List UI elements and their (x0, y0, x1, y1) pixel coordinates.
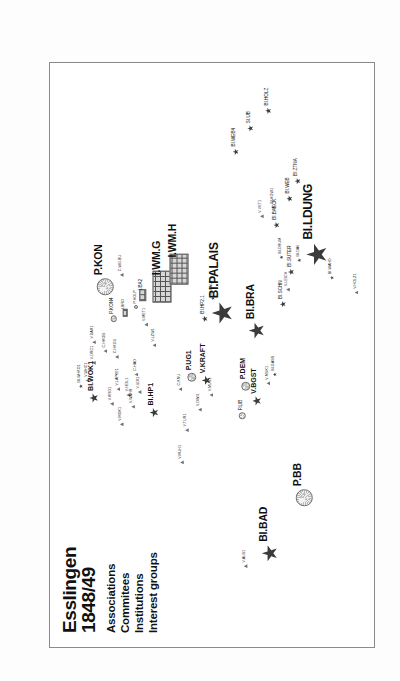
data-point-marker (296, 489, 313, 506)
data-point-marker (79, 384, 83, 388)
legend-item-interest_groups: Interest groups (146, 546, 160, 632)
data-point-marker (233, 148, 240, 155)
data-point-marker (131, 404, 135, 408)
data-point-marker (180, 460, 184, 464)
legend: AssociationsCommiteesInstitutionsInteres… (104, 546, 160, 632)
data-point-label: V.TUR1 (183, 413, 187, 426)
data-point-label: BI.WHKO1 (77, 364, 81, 382)
data-point-label: V.ALB1 (242, 549, 246, 561)
data-point-marker (273, 221, 280, 228)
data-point-label: C.HAD (133, 359, 137, 371)
data-point-label: BI.WAHD (328, 258, 332, 274)
data-point-marker (241, 381, 251, 391)
data-point-marker (89, 393, 99, 403)
data-point-label: BI.DAV (296, 244, 300, 256)
data-point-label: I.WM.G (150, 240, 162, 274)
data-point-label: BI.WOK1 (87, 360, 94, 390)
data-point-marker (260, 214, 264, 218)
data-point-label: BI.GASS (271, 355, 275, 370)
data-point-marker (103, 349, 107, 353)
legend-item-associations: Associations (104, 546, 118, 632)
data-point-label: C.KNU (177, 373, 181, 385)
data-point-marker (244, 564, 248, 568)
data-point-label: BI.BAU1 (209, 280, 213, 294)
data-point-label: P.HOLP (133, 290, 137, 303)
data-point-label: V.HOLZ1 (353, 273, 357, 288)
data-point-marker (306, 243, 328, 265)
data-point-label: P.KON (92, 244, 104, 275)
data-point-marker (115, 354, 119, 358)
data-point-label: BI.SCHN (278, 280, 283, 299)
data-point-label: P.LIB (237, 399, 242, 410)
data-point-marker (297, 258, 301, 262)
data-point-label: V.MGK1 (118, 406, 122, 420)
data-point-marker (138, 390, 142, 394)
data-point-marker (265, 107, 272, 114)
data-point-marker (198, 407, 202, 411)
data-point-marker (202, 315, 209, 322)
data-point-marker (185, 428, 189, 432)
data-point-label: V.BGST (250, 368, 257, 393)
data-point-label: V.VET1 (258, 199, 262, 212)
data-point-label: V.WAHR (129, 388, 133, 403)
title-block: Esslingen 1848/49 AssociationsCommiteesI… (60, 546, 160, 632)
data-point-label: BI.WEB (284, 177, 289, 193)
data-point-label: C.HKOB (102, 333, 106, 347)
legend-item-institutions: Institutions (132, 546, 146, 632)
data-point-marker (354, 290, 358, 294)
data-point-label: BI.LDUNG (301, 183, 315, 239)
data-point-marker (134, 305, 138, 309)
data-point-marker (252, 396, 262, 406)
data-point-label: V.DRC1 (90, 345, 94, 358)
data-point-marker (178, 387, 182, 391)
data-point-label: SI.HOW1 (270, 187, 274, 203)
data-point-marker (286, 195, 293, 202)
data-point-label: BI.BAD (257, 506, 269, 541)
data-point-label: V.MUH1 (178, 444, 182, 458)
data-point-marker (139, 289, 146, 301)
data-point-label: V.MET1 (142, 307, 146, 320)
data-point-marker (120, 272, 124, 276)
data-point-marker (92, 340, 96, 344)
data-point-label: BI.BRA (244, 284, 256, 319)
data-point-marker (144, 322, 148, 326)
data-point-marker (187, 372, 197, 382)
data-point-marker (286, 287, 290, 291)
data-point-label: V.LZW1 (151, 328, 155, 341)
data-point-marker (249, 322, 266, 339)
data-point-label: BI.HOLZ (263, 87, 268, 105)
data-point-label: V.KRO1 (108, 386, 112, 399)
data-point-marker (247, 125, 254, 132)
data-point-marker (209, 393, 213, 397)
legend-item-commitees: Commitees (118, 546, 132, 632)
data-point-marker (262, 545, 279, 562)
data-point-label: BI.SUTER (286, 245, 291, 266)
data-point-label: C.HKOU (113, 338, 117, 353)
data-point-label: V.HEIL1 (125, 377, 129, 391)
data-point-marker (152, 343, 156, 347)
figure-page: Esslingen 1848/49 AssociationsCommiteesI… (0, 0, 400, 681)
data-point-marker (123, 309, 128, 317)
data-point-label: V.DAR1 (90, 325, 94, 338)
data-point-label: V.MUK1 (265, 365, 269, 379)
data-point-label: I.BA2 (138, 278, 143, 289)
data-point-label: V.UDI1 (136, 376, 140, 388)
data-point-marker (116, 387, 120, 391)
data-point-marker (150, 407, 160, 417)
data-point-label: BI.ZTNA (293, 158, 298, 176)
rotated-figure: Esslingen 1848/49 AssociationsCommiteesI… (35, 46, 365, 636)
data-point-label: C.WG.BU (118, 254, 122, 270)
data-point-label: V.MUS1 (208, 377, 212, 391)
data-point-label: SI.UB (245, 111, 250, 123)
data-point-marker (280, 300, 287, 307)
data-point-marker (239, 412, 246, 419)
data-point-marker (279, 255, 283, 259)
data-point-marker (266, 381, 270, 385)
data-point-label: I.BRO (121, 299, 125, 309)
data-point-label: P.KON4 (108, 297, 113, 313)
data-point-label: V.LAPKE1 (115, 368, 119, 385)
data-point-marker (330, 275, 334, 279)
data-point-marker (97, 278, 114, 295)
data-point-marker (110, 315, 117, 322)
data-point-marker (273, 372, 277, 376)
